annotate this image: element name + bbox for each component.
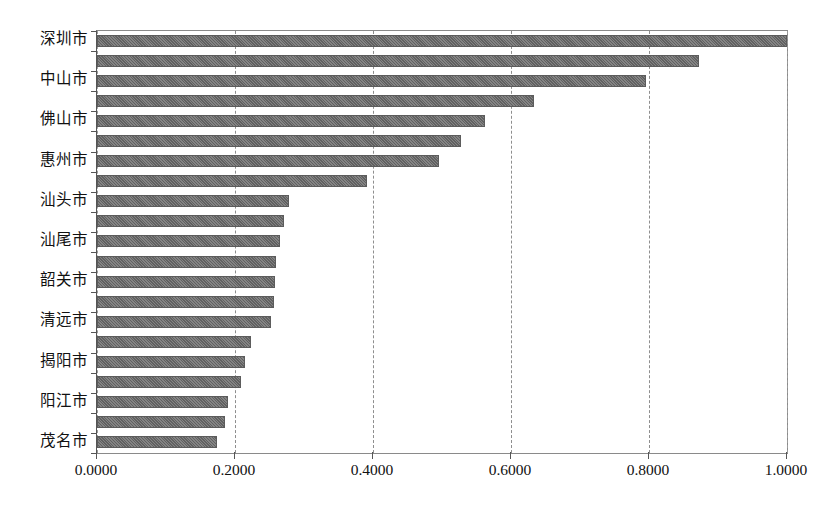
y-tick xyxy=(91,413,97,414)
bar[interactable] xyxy=(97,296,274,308)
x-tick xyxy=(786,452,787,459)
bar[interactable] xyxy=(97,416,225,428)
y-axis-label: 韶关市 xyxy=(0,273,88,289)
x-axis-labels: 0.00000.20000.40000.60000.80001.0000 xyxy=(0,461,836,485)
bar-row xyxy=(97,31,787,51)
bar[interactable] xyxy=(97,115,485,127)
y-tick xyxy=(91,91,97,92)
y-axis-label: 揭阳市 xyxy=(0,354,88,370)
bar-row xyxy=(97,232,787,252)
bar[interactable] xyxy=(97,235,280,247)
y-tick xyxy=(91,192,97,193)
bar-row xyxy=(97,91,787,111)
y-tick xyxy=(91,292,97,293)
bar[interactable] xyxy=(97,356,245,368)
bar-row xyxy=(97,413,787,433)
x-tick xyxy=(234,452,235,459)
y-tick xyxy=(91,172,97,173)
bar[interactable] xyxy=(97,35,787,47)
bar-row xyxy=(97,51,787,71)
plot-area xyxy=(96,30,788,454)
bar-row xyxy=(97,292,787,312)
bar[interactable] xyxy=(97,175,367,187)
y-tick xyxy=(91,71,97,72)
bar[interactable] xyxy=(97,276,275,288)
bar[interactable] xyxy=(97,75,646,87)
bar-row xyxy=(97,172,787,192)
y-tick xyxy=(91,393,97,394)
y-tick xyxy=(91,232,97,233)
bar[interactable] xyxy=(97,316,271,328)
bar-row xyxy=(97,212,787,232)
x-axis-label: 0.2000 xyxy=(213,461,256,480)
bar-row xyxy=(97,312,787,332)
y-axis-label: 清远市 xyxy=(0,313,88,329)
bar-row xyxy=(97,192,787,212)
x-axis-label: 0.8000 xyxy=(627,461,670,480)
bar-row xyxy=(97,353,787,373)
bar[interactable] xyxy=(97,256,276,268)
y-axis-label: 汕尾市 xyxy=(0,233,88,249)
y-tick xyxy=(91,152,97,153)
bar[interactable] xyxy=(97,195,289,207)
bar-row xyxy=(97,152,787,172)
y-axis-labels: 深圳市中山市佛山市惠州市汕头市汕尾市韶关市清远市揭阳市阳江市茂名市 xyxy=(0,30,88,452)
y-tick xyxy=(91,272,97,273)
bar[interactable] xyxy=(97,135,461,147)
x-tick xyxy=(648,452,649,459)
y-tick xyxy=(91,212,97,213)
bar-series xyxy=(97,31,787,453)
bar[interactable] xyxy=(97,95,534,107)
x-axis-ticks xyxy=(96,452,786,460)
bar[interactable] xyxy=(97,55,699,67)
bar-row xyxy=(97,272,787,292)
bar[interactable] xyxy=(97,155,439,167)
bar-row xyxy=(97,111,787,131)
y-tick xyxy=(91,252,97,253)
y-tick xyxy=(91,31,97,32)
y-tick xyxy=(91,353,97,354)
y-tick xyxy=(91,312,97,313)
bar-row xyxy=(97,332,787,352)
bar[interactable] xyxy=(97,396,228,408)
x-tick xyxy=(510,452,511,459)
y-axis-label: 惠州市 xyxy=(0,153,88,169)
x-tick xyxy=(372,452,373,459)
y-axis-label: 佛山市 xyxy=(0,112,88,128)
y-tick xyxy=(91,51,97,52)
bar-row xyxy=(97,252,787,272)
y-tick xyxy=(91,373,97,374)
bar-row xyxy=(97,373,787,393)
y-tick xyxy=(91,111,97,112)
bar-row xyxy=(97,131,787,151)
y-tick xyxy=(91,433,97,434)
x-axis-label: 0.6000 xyxy=(489,461,532,480)
gridline-1.0000 xyxy=(787,31,788,453)
y-tick xyxy=(91,332,97,333)
y-axis-label: 中山市 xyxy=(0,72,88,88)
y-axis-label: 阳江市 xyxy=(0,394,88,410)
y-axis-label: 汕头市 xyxy=(0,193,88,209)
x-axis-label: 0.4000 xyxy=(351,461,394,480)
bar[interactable] xyxy=(97,376,241,388)
bar-row xyxy=(97,71,787,91)
x-tick xyxy=(96,452,97,459)
y-axis-label: 茂名市 xyxy=(0,434,88,450)
bar[interactable] xyxy=(97,215,284,227)
bar-row xyxy=(97,393,787,413)
bar[interactable] xyxy=(97,336,251,348)
bar[interactable] xyxy=(97,436,217,448)
y-tick xyxy=(91,131,97,132)
x-axis-label: 1.0000 xyxy=(765,461,808,480)
x-axis-label: 0.0000 xyxy=(75,461,118,480)
chart-page: 深圳市中山市佛山市惠州市汕头市汕尾市韶关市清远市揭阳市阳江市茂名市 0.0000… xyxy=(0,0,836,510)
y-axis-label: 深圳市 xyxy=(0,32,88,48)
bar-row xyxy=(97,433,787,453)
